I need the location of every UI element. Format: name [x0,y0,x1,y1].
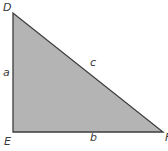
triangle-diagram: D a c E b F [0,0,168,151]
right-triangle-shape [13,13,163,132]
vertex-label-e: E [4,135,11,148]
vertex-label-d: D [3,1,11,14]
vertex-label-f: F [165,131,168,144]
side-label-a: a [3,66,10,79]
side-label-b: b [90,131,97,144]
side-label-c: c [90,56,96,69]
